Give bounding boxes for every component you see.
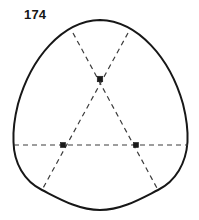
- vertex-markers-group: [61, 76, 139, 147]
- dashed-right-diagonal: [42, 33, 128, 190]
- geometric-figure-svg: [0, 0, 199, 220]
- constant-width-curve-outline: [13, 20, 187, 210]
- dashed-left-diagonal: [73, 33, 158, 190]
- vertex-marker-upper: [97, 76, 103, 82]
- vertex-marker-lower-right: [134, 143, 139, 148]
- vertex-marker-lower-left: [61, 143, 66, 148]
- figure-container: 174: [0, 0, 199, 220]
